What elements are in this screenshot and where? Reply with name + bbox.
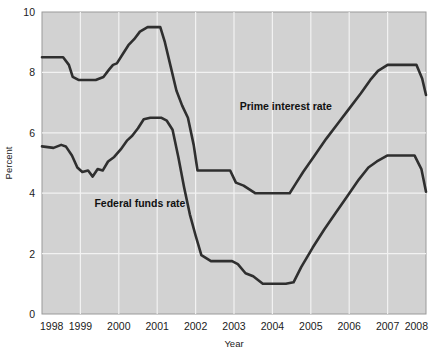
x-tick-labels-group: 1998199920002001200220032004200520062007… [40, 320, 428, 332]
x-tick-label: 2003 [222, 320, 246, 332]
y-tick-label: 0 [29, 308, 35, 320]
y-tick-label: 10 [23, 6, 35, 18]
x-tick-label: 2005 [299, 320, 323, 332]
x-tick-label: 1998 [40, 320, 64, 332]
x-tick-label: 2007 [376, 320, 400, 332]
y-tick-label: 2 [29, 248, 35, 260]
interest-rates-chart: 0246810 19981999200020012002200320042005… [0, 0, 442, 355]
y-tick-labels-group: 0246810 [23, 6, 35, 320]
x-tick-label: 2004 [261, 320, 285, 332]
x-tick-label: 2008 [405, 320, 429, 332]
x-tick-label: 2001 [146, 320, 170, 332]
x-tick-label: 2006 [338, 320, 362, 332]
x-axis-title: Year [224, 338, 243, 349]
chart-canvas: 0246810 19981999200020012002200320042005… [0, 0, 442, 355]
y-tick-label: 6 [29, 127, 35, 139]
y-axis-title: Percent [3, 146, 14, 179]
series-label-prime-interest-rate: Prime interest rate [240, 100, 332, 112]
x-tick-label: 2002 [184, 320, 208, 332]
y-tick-label: 8 [29, 66, 35, 78]
y-tick-label: 4 [29, 187, 35, 199]
series-label-federal-funds-rate: Federal funds rate [94, 197, 185, 209]
x-tick-label: 1999 [69, 320, 93, 332]
x-tick-label: 2000 [107, 320, 131, 332]
